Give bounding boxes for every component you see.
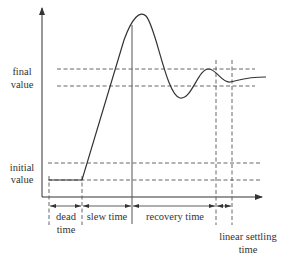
linear-settling-label-line2: time — [239, 244, 258, 255]
time-markers — [49, 25, 232, 225]
settling-time-diagram: final value initial value dead time slew… — [0, 0, 286, 258]
response-curve — [49, 14, 266, 180]
axes — [42, 8, 262, 197]
final-value-label-line2: value — [11, 79, 34, 90]
slew-time-label: slew time — [87, 211, 128, 222]
tolerance-bands — [48, 69, 262, 180]
initial-value-label-line2: value — [11, 174, 34, 185]
final-value-label-line1: final — [12, 66, 31, 77]
dead-time-label-line2: time — [57, 224, 76, 235]
recovery-time-label: recovery time — [146, 211, 204, 222]
initial-value-label-line1: initial — [10, 162, 35, 173]
linear-settling-label-line1: linear settling — [219, 231, 277, 242]
dead-time-label-line1: dead — [56, 211, 77, 222]
